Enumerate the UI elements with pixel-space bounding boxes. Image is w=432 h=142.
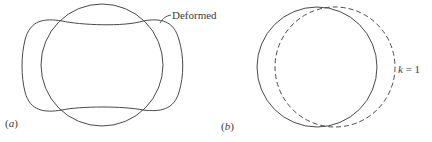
panel-b-label: (b): [221, 121, 234, 132]
deformed-shape: [22, 20, 183, 111]
panel-a-label: (a): [5, 118, 18, 129]
figure-canvas: [0, 0, 432, 142]
panel-a: [22, 4, 183, 126]
deformed-label: Deformed: [172, 10, 217, 21]
panel-b-letter: b: [225, 120, 231, 132]
panel-a-letter: a: [9, 117, 15, 129]
undeformed-circle-a: [41, 4, 163, 126]
k-equals-label: k = 1: [398, 64, 420, 75]
k-value: = 1: [406, 63, 420, 75]
k-variable: k: [398, 63, 403, 75]
panel-b: [257, 7, 395, 127]
